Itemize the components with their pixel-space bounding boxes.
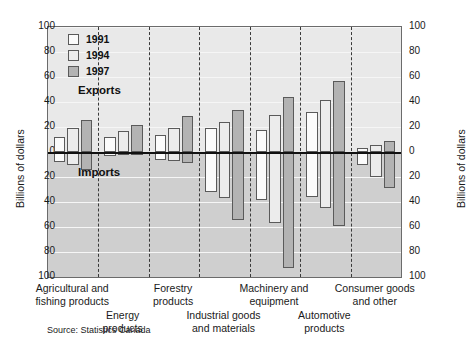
legend: 199119941997 [68,32,109,80]
y-tick-label: 0 [409,146,435,156]
y-tick-label: 40 [409,196,435,206]
y-tick-label: 20 [29,121,55,131]
category-label-line1: Automotive [282,309,366,322]
bar-exports-1997 [333,81,345,152]
y-tick-label: 80 [409,46,435,56]
bar-exports-1997 [182,116,194,152]
bar-exports-1997 [384,141,396,152]
bar-imports-1994 [370,152,382,177]
gridline [48,227,401,228]
gridline [48,277,401,278]
y-tick-label: 60 [409,71,435,81]
y-tick-label: 20 [29,171,55,181]
bar-imports-1997 [283,152,295,268]
gridline [48,102,401,103]
bar-exports-1991 [155,135,167,153]
y-tick-label: 100 [409,21,435,31]
y-tick-label: 40 [29,196,55,206]
y-tick-label: 20 [409,171,435,181]
bar-exports-1997 [131,125,143,153]
bar-exports-1997 [232,110,244,153]
gridline [48,202,401,203]
source-note: Source: Statistics Canada [47,325,151,335]
category-label-1: Agricultural andfishing products [30,282,114,307]
category-label-line1: Industrial goods [181,309,265,322]
category-label-5: Machinery andequipment [232,282,316,307]
y-tick-label: 40 [409,96,435,106]
bar-exports-1994 [118,131,130,152]
bar-exports-1994 [219,122,231,152]
y-tick-label: 100 [29,21,55,31]
bar-exports-1994 [320,100,332,153]
y-tick-label: 80 [29,246,55,256]
category-label-line1: Energy [80,309,164,322]
category-label-6: Automotiveproducts [282,309,366,334]
legend-swatch-icon [68,50,79,61]
category-label-line2: equipment [232,295,316,308]
y-tick-label: 80 [409,246,435,256]
legend-item-1991[interactable]: 1991 [68,32,109,46]
zero-axis-line [48,152,401,154]
category-label-line1: Agricultural and [30,282,114,295]
category-label-line1: Consumer goods [333,282,417,295]
category-label-line2: and materials [181,322,265,335]
bar-imports-1994 [219,152,231,198]
bar-exports-1991 [205,128,217,152]
category-label-line2: products [131,295,215,308]
category-label-7: Consumer goodsand other [333,282,417,307]
bar-exports-1991 [306,112,318,152]
bar-exports-1997 [283,97,295,152]
y-tick-label: 60 [29,71,55,81]
bar-imports-1997 [384,152,396,188]
bar-exports-1994 [269,115,281,153]
legend-swatch-icon [68,34,79,45]
y-tick-label: 0 [29,146,55,156]
bar-imports-1991 [205,152,217,192]
legend-label: 1994 [86,49,109,61]
y-axis-left-title: Billions of dollars [14,129,26,208]
category-label-line2: products [282,322,366,335]
legend-label: 1997 [86,65,109,77]
legend-item-1994[interactable]: 1994 [68,48,109,62]
category-label-line2: fishing products [30,295,114,308]
legend-label: 1991 [86,33,109,45]
bar-exports-1991 [256,130,268,153]
bar-exports-1997 [81,120,93,153]
y-axis-right-title: Billions of dollars [455,129,467,208]
bar-imports-1997 [333,152,345,226]
gridline [48,27,401,28]
y-tick-label: 60 [409,221,435,231]
category-label-4: Industrial goodsand materials [181,309,265,334]
legend-swatch-icon [68,66,79,77]
imports-annotation: Imports [78,166,120,178]
bar-exports-1991 [54,137,66,152]
bar-imports-1994 [269,152,281,223]
category-label-line2: and other [333,295,417,308]
gridline [48,252,401,253]
bar-exports-1994 [67,128,79,152]
bar-imports-1994 [320,152,332,208]
y-tick-label: 100 [409,271,435,281]
category-label-line1: Forestry [131,282,215,295]
exports-annotation: Exports [78,84,121,96]
y-tick-label: 20 [409,121,435,131]
bar-exports-1994 [370,145,382,153]
bar-exports-1994 [168,128,180,152]
category-label-line1: Machinery and [232,282,316,295]
y-tick-label: 100 [29,271,55,281]
y-tick-label: 80 [29,46,55,56]
legend-item-1997[interactable]: 1997 [68,64,109,78]
bar-imports-1991 [306,152,318,197]
bar-imports-1991 [256,152,268,200]
bar-exports-1991 [104,137,116,152]
bar-imports-1997 [232,152,244,220]
y-tick-label: 60 [29,221,55,231]
category-label-3: Forestryproducts [131,282,215,307]
y-tick-label: 40 [29,96,55,106]
